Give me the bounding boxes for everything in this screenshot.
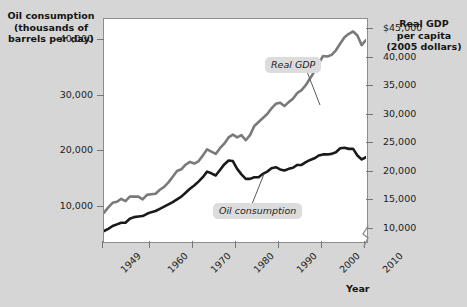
right-axis-break-icon bbox=[362, 225, 376, 247]
tick-mark-right-20000 bbox=[366, 171, 373, 172]
tick-mark-right-35000 bbox=[366, 85, 373, 86]
real-gdp-line bbox=[104, 32, 366, 213]
left-axis-tick-label-30000: 30,000 bbox=[21, 89, 93, 100]
tick-mark-right-40000 bbox=[366, 57, 373, 58]
left-axis-tick-label-20000: 20,000 bbox=[21, 144, 93, 155]
tick-mark-right-15000 bbox=[366, 199, 373, 200]
annotation-real-gdp: Real GDP bbox=[265, 57, 321, 73]
annotation-oil-consumption: Oil consumption bbox=[213, 203, 302, 219]
x-axis-tick-label-1970: 1970 bbox=[208, 250, 233, 275]
right-axis-tick-label-15000: 15,000 bbox=[383, 193, 416, 204]
right-axis-tick-label-20000: 20,000 bbox=[383, 165, 416, 176]
x-axis-tick-label-1949: 1949 bbox=[118, 250, 143, 275]
tick-mark-right-30000 bbox=[366, 114, 373, 115]
right-axis-tick-label-40000: 40,000 bbox=[383, 51, 416, 62]
tick-mark-right-45000 bbox=[366, 28, 373, 29]
right-axis-tick-label-45000: $45,000 bbox=[383, 22, 422, 33]
tick-mark-left-30000 bbox=[97, 95, 104, 96]
x-axis-tick-label-2000: 2000 bbox=[337, 250, 362, 275]
tick-mark-right-25000 bbox=[366, 142, 373, 143]
chart-figure: Oil consumption (thousands of barrels pe… bbox=[0, 0, 467, 307]
tick-mark-left-40000 bbox=[97, 39, 104, 40]
right-axis-tick-label-25000: 25,000 bbox=[383, 136, 416, 147]
left-axis-tick-label-40000: 40,000 bbox=[21, 33, 93, 44]
right-axis-tick-label-35000: 35,000 bbox=[383, 79, 416, 90]
x-axis-tick-label-1990: 1990 bbox=[294, 250, 319, 275]
tick-mark-x-1949 bbox=[102, 241, 103, 248]
x-axis-label: Year bbox=[346, 283, 370, 294]
right-axis-tick-label-10000: 10,000 bbox=[383, 222, 416, 233]
tick-mark-left-10000 bbox=[97, 206, 104, 207]
x-axis-tick-label-1960: 1960 bbox=[165, 250, 190, 275]
x-axis-tick-label-1980: 1980 bbox=[251, 250, 276, 275]
oil-consumption-line bbox=[104, 148, 366, 231]
tick-mark-x-1980 bbox=[235, 241, 236, 248]
x-axis-tick-label-2010: 2010 bbox=[380, 250, 405, 275]
tick-mark-left-20000 bbox=[97, 150, 104, 151]
tick-mark-x-1990 bbox=[278, 241, 279, 248]
tick-mark-x-1960 bbox=[149, 241, 150, 248]
tick-mark-x-1970 bbox=[192, 241, 193, 248]
left-axis-tick-label-10000: 10,000 bbox=[21, 200, 93, 211]
tick-mark-x-2000 bbox=[321, 241, 322, 248]
right-axis-tick-label-30000: 30,000 bbox=[383, 108, 416, 119]
